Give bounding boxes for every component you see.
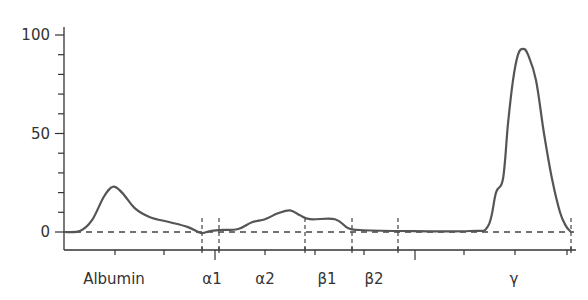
fraction-labels: Albuminα1α2β1β2γ bbox=[83, 270, 518, 288]
fraction-label: γ bbox=[510, 270, 519, 288]
y-tick-label: 0 bbox=[40, 223, 50, 241]
y-tick-label: 100 bbox=[21, 26, 50, 44]
fraction-label: Albumin bbox=[83, 270, 145, 288]
fraction-label: α1 bbox=[202, 270, 221, 288]
y-axis: 050100 bbox=[21, 26, 64, 250]
electrophoresis-chart: 050100 Albuminα1α2β1β2γ bbox=[0, 0, 588, 300]
protein-curve bbox=[64, 49, 571, 233]
x-axis bbox=[64, 250, 576, 260]
y-tick-label: 50 bbox=[31, 125, 50, 143]
fraction-label: α2 bbox=[255, 270, 274, 288]
fraction-label: β1 bbox=[317, 270, 336, 288]
fraction-dividers bbox=[202, 218, 571, 253]
fraction-label: β2 bbox=[364, 270, 383, 288]
